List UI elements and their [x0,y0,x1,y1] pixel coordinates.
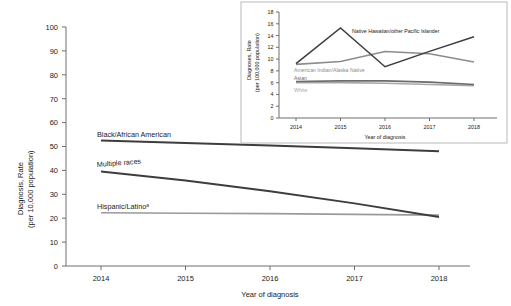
main-y-tick-label: 10 [50,238,58,247]
inset-y-tick-label: 10 [268,56,274,62]
main-y-tick-label: 100 [45,23,58,32]
main-y-tick-label: 80 [50,71,58,80]
main-y-tick-label: 70 [50,95,58,104]
main-x-tick-label: 2015 [177,274,194,283]
inset-x-tick-label: 2017 [424,124,436,130]
main-y-tick-label: 40 [50,166,58,175]
main-x-tick-label: 2017 [346,274,363,283]
inset-y-tick-label: 4 [271,91,274,97]
main-y-axis-title-line1: Diagnosis, Rate [16,162,25,215]
main-x-tick-label: 2018 [431,274,448,283]
figure-root: Diagnosis, Rate (per 10,000 population) … [0,0,511,306]
main-y-tick-label: 20 [50,214,58,223]
inset-y-tick-label: 2 [271,103,274,109]
series-label-native-hawaiian-pacific-islander: Native Hawaiian/other Pacific Islander [352,28,440,34]
series-label-black-african-american: Black/African American [97,130,171,139]
inset-x-tick-label: 2018 [468,124,480,130]
inset-y-tick-label: 14 [268,33,274,39]
main-y-tick-label: 30 [50,190,58,199]
inset-y-axis-title-line1: Diagnoses, Rate [246,40,252,80]
inset-y-tick-label: 8 [271,68,274,74]
inset-frame [241,2,507,143]
main-y-tick-label: 60 [50,118,58,127]
main-x-tick-label: 2016 [262,274,279,283]
inset-y-tick-label: 6 [271,80,274,86]
inset-x-axis-title: Year of diagnosis [364,134,405,140]
inset-y-tick-label: 0 [271,115,274,121]
inset-y-tick-label: 18 [268,9,274,15]
inset-x-tick-label: 2015 [335,124,347,130]
main-x-tick-label: 2014 [93,274,110,283]
main-x-axis-title: Year of diagnosis [241,290,299,299]
main-y-tick-label: 90 [50,47,58,56]
series-label-white: White [294,87,307,93]
inset-y-tick-label: 12 [268,44,274,50]
inset-x-tick-label: 2016 [379,124,391,130]
inset-x-tick-label: 2014 [290,124,302,130]
series-label-hispanic-latino: Hispanic/Latinoᵃ [97,202,149,211]
main-y-tick-label: 50 [50,142,58,151]
series-label-asian: Asian [294,75,307,81]
series-label-american-indian-alaska-native: American Indian/Alaska Native [294,67,365,73]
inset-chart: Diagnoses, Rate (per 100,000 population)… [241,2,507,143]
inset-y-axis-title-line2: (per 100,000 population) [254,33,260,92]
inset-y-tick-label: 16 [268,21,274,27]
main-y-tick-label: 0 [54,262,58,271]
main-y-axis-title-line2: (per 10,000 population) [26,150,35,228]
